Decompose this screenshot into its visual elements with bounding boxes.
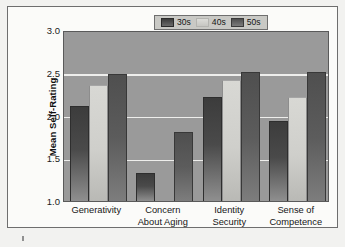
y-axis-tick-label: 3.0 [30, 26, 60, 36]
y-axis-tick-label: 2.5 [30, 69, 60, 79]
series-50s-swatch [231, 18, 244, 27]
legend-item-40s[interactable]: 40s [196, 18, 226, 27]
bar-50s-sense-of-competence [307, 72, 326, 201]
x-axis-label-line: Security [196, 217, 263, 229]
x-axis-label-line: Generativity [63, 205, 130, 217]
x-axis-label-concern-about-aging: ConcernAbout Aging [130, 205, 197, 228]
series-40s-swatch [196, 18, 209, 27]
x-axis-label-sense-of-competence: Sense ofCompetence [263, 205, 330, 228]
x-axis-label-line: Competence [263, 217, 330, 229]
bar-40s-sense-of-competence [288, 97, 307, 201]
x-axis-label-line: About Aging [130, 217, 197, 229]
gridline [64, 74, 328, 76]
bar-30s-sense-of-competence [269, 121, 288, 201]
legend-item-30s[interactable]: 30s [161, 18, 191, 27]
series-30s-swatch [161, 18, 174, 27]
y-axis-tick-label: 1.5 [30, 155, 60, 165]
scan-artifact-mark [22, 236, 24, 241]
y-axis-tick-label: 2.0 [30, 112, 60, 122]
y-axis-tick-labels: 1.01.52.02.53.0 [26, 31, 60, 202]
y-axis-tick-label: 1.0 [30, 197, 60, 207]
legend-label: 50s [247, 18, 261, 27]
bar-30s-generativity [70, 106, 89, 201]
bar-50s-identity-security [241, 72, 260, 201]
x-axis-label-line: Concern [130, 205, 197, 217]
bar-30s-concern-about-aging [136, 173, 155, 201]
x-axis-label-identity-security: IdentitySecurity [196, 205, 263, 228]
figure-frame: Mean Self-Rating 1.01.52.02.53.0 Generat… [7, 6, 338, 228]
x-axis-label-line: Sense of [263, 205, 330, 217]
x-axis-label-line: Identity [196, 205, 263, 217]
legend-label: 30s [177, 18, 191, 27]
bar-40s-generativity [89, 85, 108, 201]
bar-50s-generativity [108, 74, 127, 201]
x-axis-category-labels: GenerativityConcernAbout AgingIdentitySe… [63, 205, 329, 235]
legend-item-50s[interactable]: 50s [231, 18, 261, 27]
bar-40s-identity-security [222, 80, 241, 201]
legend-label: 40s [212, 18, 226, 27]
x-axis-label-generativity: Generativity [63, 205, 130, 217]
plot-area [63, 31, 329, 202]
figure-root: Mean Self-Rating 1.01.52.02.53.0 Generat… [0, 0, 345, 247]
bar-30s-identity-security [203, 97, 222, 201]
chart-legend: 30s40s50s [154, 15, 268, 30]
bar-50s-concern-about-aging [174, 132, 193, 201]
